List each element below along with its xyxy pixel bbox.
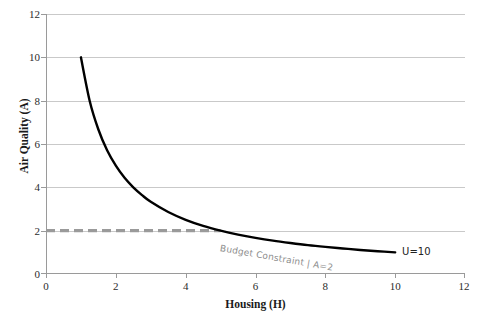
y-tick-label: 6 [35,138,41,150]
x-axis-tick [256,274,257,278]
x-axis-tick [116,274,117,278]
y-tick-label: 4 [35,181,41,193]
x-axis-tick [464,274,465,278]
x-axis-tick [325,274,326,278]
series-layer [46,14,465,274]
x-tick-label: 2 [113,280,119,292]
utility-curve-label: U=10 [402,246,430,257]
y-tick-label: 12 [29,8,40,20]
x-axis-title: Housing (H) [46,298,465,310]
y-axis-title: Air Quality (A) [18,66,30,206]
x-tick-label: 12 [459,280,470,292]
x-axis-tick [395,274,396,278]
y-tick-label: 8 [35,95,41,107]
x-tick-label: 10 [390,280,401,292]
indifference-curve [81,57,395,252]
x-tick-label: 8 [323,280,329,292]
y-tick-label: 10 [29,51,40,63]
x-axis-tick [186,274,187,278]
chart-root: 12 10 8 6 4 2 0 Budget [0,0,480,326]
y-tick-label: 2 [35,225,41,237]
x-tick-label: 4 [183,280,189,292]
x-tick-label: 0 [43,280,49,292]
x-axis-tick-labels: 0 2 4 6 8 10 12 [46,280,465,294]
plot-area: Budget Constraint | A=2 U=10 [46,14,465,274]
y-tick-label: 0 [35,268,41,280]
x-axis-tick [46,274,47,278]
x-tick-label: 6 [253,280,259,292]
